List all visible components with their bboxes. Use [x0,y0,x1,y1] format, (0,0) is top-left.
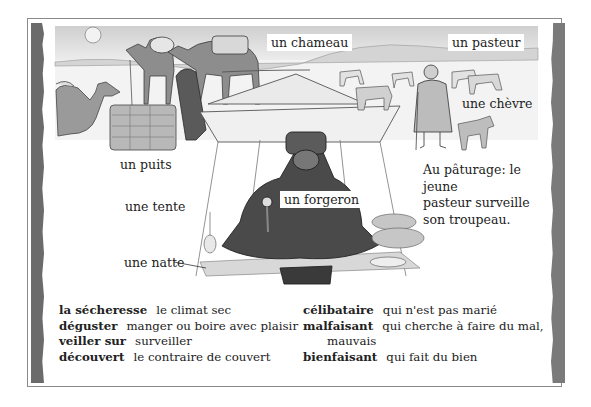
glossary-term: bienfaisant [303,350,377,364]
glossary-term: découvert [59,350,124,364]
glossary-term: déguster [59,319,117,333]
caption-line-1: Au pâturage: le jeune [423,162,553,195]
pots [370,214,424,267]
glossary-term: célibataire [303,303,374,317]
label-un-puits: un puits [120,157,172,172]
glossary-definition: le climat sec [156,303,231,317]
glossary-entry: bienfaisantqui fait du bien [303,350,544,366]
label-une-natte: une natte [124,255,184,270]
glossary-definition: surveiller [135,334,192,348]
glossary-definition-continuation: mauvais [303,334,544,350]
label-une-tente: une tente [125,199,185,214]
glossary-right-column: célibatairequi n'est pas marié malfaisan… [303,303,544,365]
glossary-term: la sécheresse [59,303,147,317]
glossary-definition: le contraire de couvert [133,350,270,364]
glossary-entry: veiller sursurveiller [59,334,298,350]
caption-paturage: Au pâturage: le jeune pasteur surveille … [423,162,553,228]
glossary-definition: qui n'est pas marié [383,303,497,317]
glossary-left-column: la sécheressele climat sec dégustermange… [59,303,298,365]
glossary-entry: dégustermanger ou boire avec plaisir [59,319,298,335]
glossary-term: veiller sur [59,334,126,348]
caption-line-2: pasteur surveille [423,195,553,212]
glossary-term: malfaisant [303,319,373,333]
label-un-forgeron: un forgeron [280,191,363,208]
glossary-entry: célibatairequi n'est pas marié [303,303,544,319]
glossary-definition: qui fait du bien [386,350,477,364]
glossary-entry: découvertle contraire de couvert [59,350,298,366]
label-un-pasteur: un pasteur [448,34,524,51]
glossary-definition: qui cherche à faire du mal, [382,319,543,333]
label-une-chevre: une chèvre [462,96,532,111]
caption-line-3: son troupeau. [423,212,553,229]
glossary-entry: malfaisantqui cherche à faire du mal, [303,319,544,335]
label-un-chameau: un chameau [267,34,352,51]
glossary-definition: manger ou boire avec plaisir [126,319,298,333]
glossary-entry: la sécheressele climat sec [59,303,298,319]
